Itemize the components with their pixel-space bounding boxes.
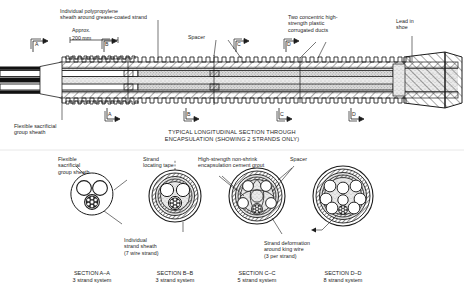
callout-line: Flexible <box>58 156 77 162</box>
drawing-canvas: Individual polypropylenesheath around gr… <box>0 0 464 295</box>
longitudinal-section <box>0 52 462 108</box>
callout-line: High-strength non-shrink <box>198 156 257 162</box>
caption-system: 8 strand system <box>324 277 363 283</box>
section-marker-d-bottom: D <box>352 111 356 117</box>
detail-callout-encapsulation-cement-grout: High-strength non-shrinkencapsulation ce… <box>198 156 264 169</box>
callout-line: shoe <box>396 24 408 30</box>
seven-wire-strand-d <box>338 205 348 215</box>
seven-wire-strand-b <box>169 197 180 208</box>
caption-name: SECTION C–C <box>239 270 276 276</box>
callout-line: locating tape <box>143 162 174 168</box>
callout-line: group sheath <box>14 129 46 135</box>
cross-section-d-d <box>311 166 373 233</box>
callout-line: around king wire <box>264 246 304 252</box>
section-marker-c-top: C <box>237 41 241 47</box>
callout-line: Flexible sacrificial <box>14 123 57 129</box>
figure-title: TYPICAL LONGITUDINAL SECTION THROUGHENCA… <box>132 129 332 143</box>
callout-line: (3 per strand) <box>264 253 297 259</box>
callout-flexible-sacrificial-group-sheath: Flexible sacrificialgroup sheath <box>14 123 57 136</box>
callout-line: (7 wire strand) <box>124 250 159 256</box>
detail-callout-individual-strand-sheath: Individualstrand sheath(7 wire strand) <box>124 237 159 256</box>
callout-lead-in-shoe: Lead inshoe <box>396 18 414 31</box>
callout-line: Strand <box>143 156 159 162</box>
strand-run-upper <box>0 71 138 77</box>
caption-name: SECTION A–A <box>74 270 110 276</box>
caption-section-b-b: SECTION B–B3 strand system <box>135 270 215 284</box>
callout-line: strength plastic <box>288 20 324 26</box>
cross-section-c-c <box>229 168 292 234</box>
dimension-approx-label: Approx. <box>72 27 90 33</box>
section-marker-b-top: B <box>105 41 108 47</box>
callout-line: corrugated ducts <box>288 27 328 33</box>
callout-line: Spacer <box>290 156 307 162</box>
section-marker-a-top: A <box>35 41 38 47</box>
detail-callout-spacer: Spacer <box>290 156 307 162</box>
caption-section-d-d: SECTION D–D8 strand system <box>303 270 383 284</box>
detail-callout-strand-deformation: Strand deformationaround king wire(3 per… <box>264 240 310 259</box>
callout-line: encapsulation cement grout <box>198 162 264 168</box>
lead-in-shoe-body <box>393 52 462 108</box>
caption-system: 3 strand system <box>156 277 195 283</box>
section-marker-d-top: D <box>287 41 291 47</box>
callout-spacer: Spacer <box>188 34 205 40</box>
callout-line: sheath around grease-coated strand <box>60 14 147 20</box>
engineering-drawing <box>0 0 464 295</box>
strand-run-lower <box>0 84 138 90</box>
figure-title-line2: ENCAPSULATION (SHOWING 2 STRANDS ONLY) <box>165 136 299 142</box>
caption-section-c-c: SECTION C–C5 strand system <box>217 270 297 284</box>
dimension-value-label: 200 mm <box>72 35 91 41</box>
callout-line: group sheath <box>58 169 90 175</box>
caption-system: 3 strand system <box>73 277 112 283</box>
seven-wire-strand-a <box>86 196 98 208</box>
section-marker-a-bottom: A <box>108 111 111 117</box>
callout-concentric-ducts: Two concentric high-strength plasticcorr… <box>288 14 338 33</box>
callout-line: Two concentric high- <box>288 14 338 20</box>
caption-name: SECTION B–B <box>157 270 193 276</box>
callout-individual-polypropylene-sheath: Individual polypropylenesheath around gr… <box>60 8 147 21</box>
seven-wire-strand-c <box>252 204 261 213</box>
sacrificial-sheath-taper <box>40 62 62 98</box>
cross-section-b-b <box>149 160 201 232</box>
detail-callout-strand-locating-tape: Strandlocating tape <box>143 156 174 169</box>
caption-system: 5 strand system <box>238 277 277 283</box>
caption-section-a-a: SECTION A–A3 strand system <box>52 270 132 284</box>
section-marker-c-bottom: C <box>280 111 284 117</box>
callout-line: Strand deformation <box>264 240 310 246</box>
callout-line: Spacer <box>188 34 205 40</box>
section-marker-b-bottom: B <box>187 111 190 117</box>
figure-title-line1: TYPICAL LONGITUDINAL SECTION THROUGH <box>168 129 295 135</box>
callout-line: Individual <box>124 237 147 243</box>
leader-lines-top <box>158 20 412 62</box>
caption-name: SECTION D–D <box>325 270 362 276</box>
callout-line: Individual polypropylene <box>60 8 118 14</box>
callout-line: Lead in <box>396 18 414 24</box>
callout-line: strand sheath <box>124 243 157 249</box>
callout-line: sacrificial <box>58 162 80 168</box>
detail-callout-flexible-sacrificial-group-sheath: Flexiblesacrificialgroup sheath <box>58 156 90 175</box>
